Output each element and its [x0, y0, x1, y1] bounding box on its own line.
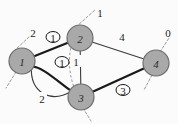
external-label-x3: 0 [165, 27, 171, 39]
graph-figure: 1234112143210 [0, 0, 178, 124]
edge-label-text-e13a: 1 [59, 57, 65, 69]
node-label-3: 3 [77, 92, 84, 104]
node-label-2: 2 [77, 33, 83, 45]
graph-canvas: 1234112143210 [0, 0, 178, 124]
node-label-4: 4 [153, 58, 159, 70]
edge-label-text-e24: 4 [119, 31, 125, 43]
edge-label-e13b: 2 [37, 92, 47, 105]
external-label-x2: 1 [97, 7, 103, 19]
edge-label-text-e34: 3 [120, 85, 126, 97]
node-3[interactable]: 3 [68, 84, 94, 110]
node-4[interactable]: 4 [143, 50, 169, 76]
edge-label-text-e13b: 2 [39, 93, 45, 105]
node-1[interactable]: 1 [9, 48, 35, 74]
node-label-1: 1 [19, 56, 25, 68]
edge-label-e24: 4 [117, 30, 127, 43]
edge-label-text-e12: 1 [50, 32, 56, 44]
edge-e23 [80, 49, 81, 86]
edge-label-text-e23: 1 [73, 56, 79, 68]
edge-label-e23: 1 [71, 55, 81, 68]
edge-path-e23 [80, 49, 81, 86]
external-label-x1: 2 [30, 27, 36, 39]
node-2[interactable]: 2 [67, 25, 93, 51]
